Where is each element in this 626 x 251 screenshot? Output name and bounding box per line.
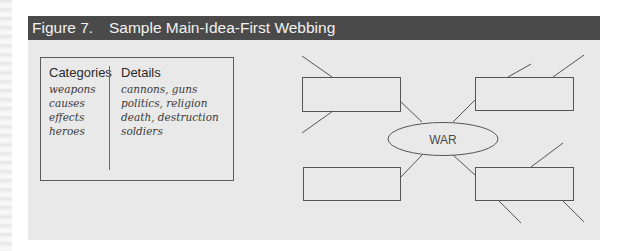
spoke-line xyxy=(531,143,563,167)
connector-line xyxy=(400,155,422,178)
web-box-bottom-right xyxy=(476,168,574,201)
web-box-bottom-left xyxy=(304,168,401,201)
web-box-top-left xyxy=(303,78,401,112)
web-diagram: WAR xyxy=(0,0,626,251)
spoke-line xyxy=(562,200,584,222)
connector-line xyxy=(453,155,475,175)
web-box-top-right xyxy=(476,78,574,111)
spoke-line xyxy=(302,56,332,77)
spoke-line xyxy=(498,200,521,223)
connector-line xyxy=(453,100,475,122)
spoke-line xyxy=(508,64,531,77)
spoke-line xyxy=(553,55,584,77)
spoke-line xyxy=(302,111,333,133)
center-label: WAR xyxy=(429,133,457,147)
connector-line xyxy=(400,101,422,122)
